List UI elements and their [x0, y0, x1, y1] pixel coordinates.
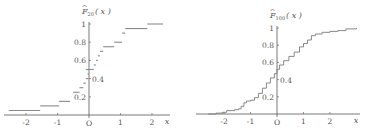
- y-tick-label: 0.8: [262, 41, 274, 50]
- y-tick-label: 0.4: [280, 76, 292, 85]
- x-tick-label: 1: [118, 118, 123, 127]
- x-tick-label: -1: [247, 117, 254, 126]
- x-tick-label: 2: [150, 118, 155, 127]
- chart-empirical-cdf-100: -2-112Ox0.20.40.60.81F100( x ): [196, 9, 360, 127]
- y-tick-label: 0.4: [92, 75, 104, 84]
- y-tick-label: 0.6: [74, 56, 86, 65]
- y-tick-label: 0.2: [262, 93, 274, 102]
- x-axis-label: x: [354, 116, 359, 125]
- chart-empirical-cdf-20: -2-112Ox0.20.40.60.81F20( x ): [4, 5, 170, 128]
- x-tick-label: -2: [22, 118, 30, 127]
- x-tick-label: 1: [301, 117, 306, 126]
- x-tick-label: 2: [328, 117, 333, 126]
- y-axis-label: F20( x ): [81, 7, 111, 17]
- x-axis-label: x: [165, 117, 170, 126]
- origin-label: O: [274, 118, 280, 127]
- y-tick-label: 0.2: [74, 93, 86, 102]
- origin-label: O: [86, 119, 92, 128]
- ecdf-curve: [208, 28, 356, 114]
- y-axis-label: F100( x ): [269, 11, 302, 21]
- y-tick-label: 1: [269, 24, 274, 33]
- figure: -2-112Ox0.20.40.60.81F20( x ) -2-112Ox0.…: [0, 0, 372, 133]
- x-tick-label: -1: [54, 118, 61, 127]
- y-tick-label: 0.6: [262, 58, 274, 67]
- y-tick-label: 1: [81, 20, 86, 29]
- x-tick-label: -2: [220, 117, 228, 126]
- y-tick-label: 0.8: [74, 38, 86, 47]
